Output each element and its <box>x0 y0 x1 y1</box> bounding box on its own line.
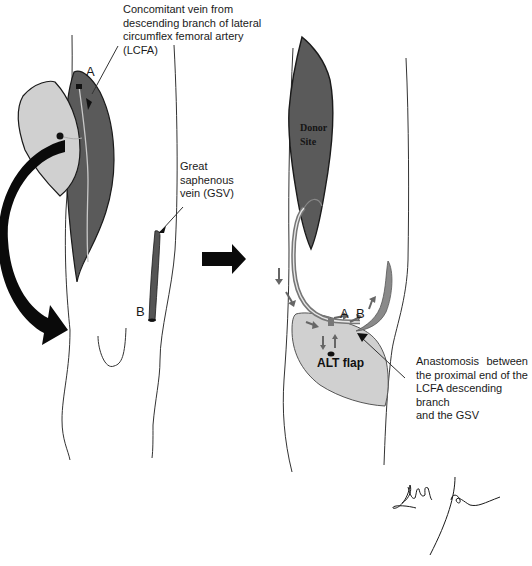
donor-site-line-2: Site <box>300 135 327 149</box>
left-marker-a: A <box>86 64 95 79</box>
lcfa-callout-line-3: circumflex femoral artery <box>123 30 303 44</box>
lcfa-leader-line <box>92 46 118 94</box>
flow-arrowhead-down-1 <box>275 279 283 285</box>
gsv-leader-line <box>162 207 183 230</box>
gsv-callout-line-1: Great <box>180 160 260 174</box>
lcfa-callout-line-4: (LCFA) <box>123 44 303 58</box>
lcfa-callout-line-2: descending branch of lateral <box>123 17 303 31</box>
right-arrow-icon <box>202 244 246 274</box>
right-panel <box>275 37 409 472</box>
donor-site-line-1: Donor <box>300 121 327 135</box>
handwritten-signature <box>393 477 500 555</box>
alt-flap-label: ALT flap <box>317 356 364 370</box>
anastomosis-line-2: the proximal end of the <box>416 369 528 383</box>
right-marker-a: A <box>340 306 349 321</box>
gsv-callout-line-2: saphenous <box>180 174 260 188</box>
gsv-vessel <box>149 231 160 322</box>
anastomosis-line-1: Anastomosis between <box>416 355 528 369</box>
left-panel <box>0 35 183 460</box>
anastomosis-line-4: and the GSV <box>416 409 528 423</box>
anastomosis-marker <box>328 318 334 326</box>
gsv-callout: Great saphenous vein (GSV) <box>180 160 260 201</box>
gsv-callout-line-3: vein (GSV) <box>180 187 260 201</box>
donor-site-label: Donor Site <box>300 121 327 149</box>
anastomosis-line-3: LCFA descending branch <box>416 382 528 409</box>
anastomosis-callout: Anastomosis between the proximal end of … <box>416 355 528 423</box>
knee-curve <box>98 328 126 367</box>
flow-arrow-diag-1 <box>286 292 292 302</box>
gsv-end <box>148 318 156 321</box>
lcfa-vein-callout: Concomitant vein from descending branch … <box>123 3 303 57</box>
lcfa-callout-line-1: Concomitant vein from <box>123 3 303 17</box>
vessel-marker-top <box>76 84 82 89</box>
pedicle-dot <box>57 133 64 140</box>
left-marker-b: B <box>136 304 145 319</box>
surgical-diagram <box>0 0 532 566</box>
right-marker-b: B <box>356 306 365 321</box>
